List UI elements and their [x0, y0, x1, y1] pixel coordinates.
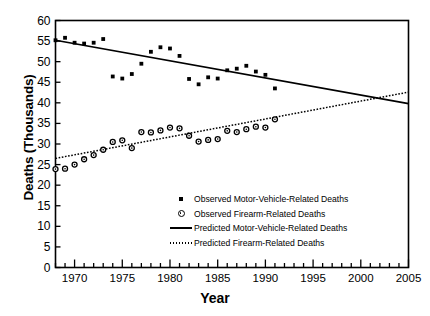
data-point-firearm-center: [131, 147, 133, 149]
trend-line-motor-vehicle: [56, 40, 409, 103]
data-point-motor-vehicle: [130, 72, 134, 76]
data-point-firearm-center: [55, 168, 57, 170]
legend-item: Observed Firearm-Related Deaths: [168, 207, 348, 222]
data-point-firearm-center: [102, 149, 104, 151]
data-point-firearm-center: [150, 132, 152, 134]
data-point-motor-vehicle: [120, 77, 124, 81]
data-point-motor-vehicle: [54, 38, 58, 42]
data-point-motor-vehicle: [225, 68, 229, 72]
data-point-firearm-center: [112, 141, 114, 143]
data-point-motor-vehicle: [244, 64, 248, 68]
data-point-firearm-center: [121, 139, 123, 141]
data-point-motor-vehicle: [178, 54, 182, 58]
legend-item: Predicted Motor-Vehicle-Related Deaths: [168, 221, 348, 236]
chart-figure: Deaths (Thousands) Year 6055504540353025…: [0, 0, 430, 316]
data-point-motor-vehicle: [63, 36, 67, 40]
legend-marker-dotted-line-icon: [168, 242, 194, 244]
data-point-firearm-center: [255, 126, 257, 128]
data-point-motor-vehicle: [111, 75, 115, 79]
data-point-motor-vehicle: [197, 82, 201, 86]
data-point-motor-vehicle: [92, 41, 96, 45]
legend-item-label: Predicted Motor-Vehicle-Related Deaths: [194, 223, 347, 233]
data-point-motor-vehicle: [206, 75, 210, 79]
data-point-firearm-center: [141, 131, 143, 133]
data-point-motor-vehicle: [254, 70, 258, 74]
legend-marker-filled-square-icon: [168, 197, 194, 201]
data-point-firearm-center: [64, 168, 66, 170]
data-point-firearm-center: [265, 127, 267, 129]
legend-item-label: Predicted Firearm-Related Deaths: [194, 238, 324, 248]
trend-line-firearm: [56, 92, 409, 158]
data-point-motor-vehicle: [82, 42, 86, 46]
data-point-firearm-center: [179, 128, 181, 130]
data-point-motor-vehicle: [263, 73, 267, 77]
data-point-firearm-center: [246, 128, 248, 130]
data-point-firearm-center: [236, 131, 238, 133]
legend-item: Predicted Firearm-Related Deaths: [168, 236, 348, 251]
data-point-firearm-center: [226, 130, 228, 132]
data-point-firearm-center: [188, 135, 190, 137]
data-point-firearm-center: [160, 130, 162, 132]
data-point-firearm-center: [74, 164, 76, 166]
data-point-motor-vehicle: [235, 67, 239, 71]
data-point-motor-vehicle: [273, 87, 277, 91]
data-point-motor-vehicle: [73, 41, 77, 45]
data-point-firearm-center: [93, 154, 95, 156]
data-point-motor-vehicle: [149, 50, 153, 54]
data-point-motor-vehicle: [216, 77, 220, 81]
data-point-motor-vehicle: [101, 37, 105, 41]
data-point-motor-vehicle: [168, 47, 172, 51]
legend-marker-open-circle-icon: [168, 210, 194, 217]
data-point-firearm-center: [169, 127, 171, 129]
data-point-firearm-center: [207, 139, 209, 141]
data-point-motor-vehicle: [139, 62, 143, 66]
data-point-motor-vehicle: [159, 45, 163, 49]
data-point-firearm-center: [83, 158, 85, 160]
data-point-motor-vehicle: [187, 77, 191, 81]
legend-item-label: Observed Motor-Vehicle-Related Deaths: [194, 194, 348, 204]
data-point-firearm-center: [217, 138, 219, 140]
legend-item-label: Observed Firearm-Related Deaths: [194, 209, 325, 219]
legend-item: Observed Motor-Vehicle-Related Deaths: [168, 192, 348, 207]
legend-marker-solid-line-icon: [168, 227, 194, 229]
data-point-firearm-center: [274, 119, 276, 121]
plot-area: [0, 0, 430, 316]
chart-legend: Observed Motor-Vehicle-Related DeathsObs…: [168, 192, 348, 250]
data-point-firearm-center: [198, 141, 200, 143]
